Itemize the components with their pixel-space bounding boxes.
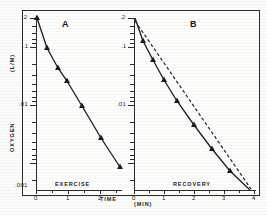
panel-b-plot [0,0,267,215]
panel-b-series-predicted [135,21,251,189]
panel-b-markers [140,38,233,174]
data-point-marker [140,38,146,44]
panel-b-line-dashed [135,21,251,189]
figure-canvas: (L/M) OXYGEN A .2 .1 .01 .001 0 1 2 EXER… [0,0,267,215]
